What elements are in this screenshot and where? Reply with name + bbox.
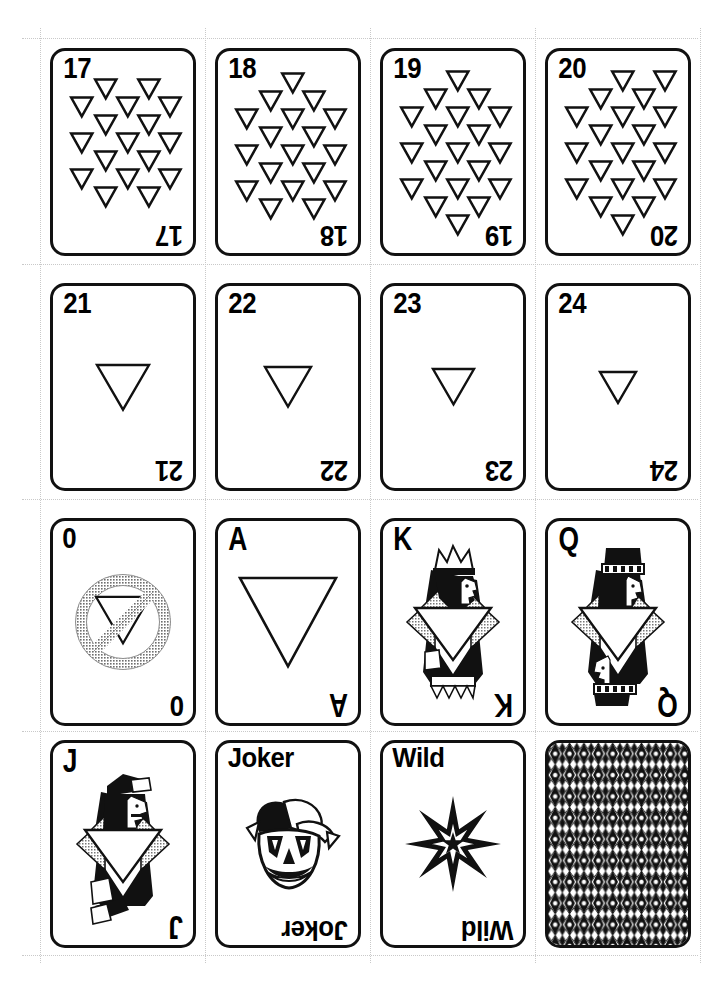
card-rank-top-left: Joker <box>228 746 294 771</box>
card-K[interactable]: KK <box>380 518 526 726</box>
card-rank-top-left: 24 <box>558 289 586 317</box>
card-20[interactable]: 2020 <box>545 48 691 256</box>
card-18[interactable]: 1818 <box>215 48 361 256</box>
card-joker[interactable]: JokerJoker <box>215 740 361 948</box>
card-24[interactable]: 2424 <box>545 283 691 491</box>
cut-guide-vertical <box>370 28 371 963</box>
card-rank-bottom-right: 0 <box>170 692 184 720</box>
card-A[interactable]: AA <box>215 518 361 726</box>
card-rank-top-left: Q <box>559 524 579 554</box>
card-rank-top-left: Wild <box>392 746 444 771</box>
card-rank-top-left: 22 <box>228 289 256 317</box>
card-rank-top-left: 21 <box>63 289 91 317</box>
card-0[interactable]: 00 <box>50 518 196 726</box>
card-rank-bottom-right: 21 <box>155 457 183 485</box>
cut-guide-horizontal <box>22 264 698 265</box>
card-rank-top-left: 19 <box>393 54 421 82</box>
card-rank-bottom-right: 24 <box>650 457 678 485</box>
card-21[interactable]: 2121 <box>50 283 196 491</box>
cut-guide-horizontal <box>22 955 698 956</box>
card-wild[interactable]: WildWild <box>380 740 526 948</box>
card-rank-top-left: 17 <box>63 54 91 82</box>
card-sheet: 1717181819192020212122222323242400AAKKQQ… <box>0 0 719 982</box>
card-rank-bottom-right: 17 <box>155 222 183 250</box>
card-back[interactable] <box>545 740 691 948</box>
cut-guide-vertical <box>40 28 41 963</box>
card-rank-bottom-right: Wild <box>462 917 514 942</box>
card-rank-bottom-right: Joker <box>282 917 348 942</box>
cut-guide-horizontal <box>22 731 698 732</box>
cut-guide-vertical <box>535 28 536 963</box>
card-rank-top-left: J <box>63 746 77 776</box>
card-rank-top-left: 23 <box>393 289 421 317</box>
card-rank-bottom-right: 20 <box>650 222 678 250</box>
card-rank-top-left: K <box>393 524 412 554</box>
card-rank-top-left: 18 <box>228 54 256 82</box>
diamond-lattice-pattern <box>548 743 688 945</box>
cut-guide-horizontal <box>22 499 698 500</box>
card-rank-top-left: 20 <box>558 54 586 82</box>
cut-guide-vertical <box>700 28 701 963</box>
card-rank-bottom-right: 18 <box>320 222 348 250</box>
card-rank-bottom-right: Q <box>657 690 677 720</box>
card-rank-top-left: 0 <box>62 524 76 552</box>
card-rank-bottom-right: A <box>329 690 348 720</box>
card-17[interactable]: 1717 <box>50 48 196 256</box>
card-22[interactable]: 2222 <box>215 283 361 491</box>
card-rank-bottom-right: J <box>169 912 183 942</box>
card-rank-bottom-right: K <box>494 690 513 720</box>
card-rank-bottom-right: 22 <box>320 457 348 485</box>
card-rank-bottom-right: 19 <box>485 222 513 250</box>
cut-guide-vertical <box>205 28 206 963</box>
card-J[interactable]: JJ <box>50 740 196 948</box>
card-rank-bottom-right: 23 <box>485 457 513 485</box>
cut-guide-horizontal <box>22 38 698 39</box>
card-rank-top-left: A <box>228 524 247 554</box>
card-Q[interactable]: QQ <box>545 518 691 726</box>
card-23[interactable]: 2323 <box>380 283 526 491</box>
card-19[interactable]: 1919 <box>380 48 526 256</box>
